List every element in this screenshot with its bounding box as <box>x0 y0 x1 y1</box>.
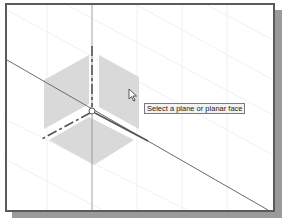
plane-xz[interactable] <box>49 117 134 165</box>
tooltip: Select a plane or planar face <box>144 103 245 114</box>
grid-line <box>7 160 102 210</box>
arrow-cursor-icon <box>128 88 138 102</box>
origin-point-icon[interactable] <box>89 108 95 114</box>
grid-line <box>207 5 273 40</box>
grid-line <box>137 5 273 80</box>
